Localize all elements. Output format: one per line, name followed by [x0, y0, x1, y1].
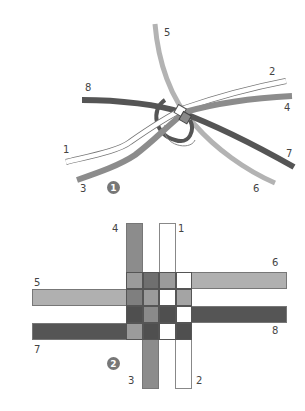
strand-label-4: 4 [284, 103, 290, 113]
grid-cell [159, 323, 176, 340]
grid-cell [143, 306, 160, 323]
strand-6-bar [191, 272, 287, 289]
strand-5-bar [32, 289, 127, 306]
strand-label-8: 8 [85, 83, 91, 93]
strand-label-6: 6 [253, 184, 259, 194]
knot-strands-drawing [0, 0, 305, 205]
strand-label-1: 1 [63, 145, 69, 155]
grid-label-3: 3 [128, 376, 134, 386]
grid-cell [126, 272, 143, 289]
strand-4-bar [126, 223, 143, 273]
grid-label-2: 2 [196, 376, 202, 386]
grid-cell [159, 272, 176, 289]
grid-cell [143, 323, 160, 340]
grid-label-4: 4 [112, 224, 118, 234]
grid-cell [176, 289, 193, 306]
strand-label-3: 3 [80, 184, 86, 194]
grid-cell [126, 289, 143, 306]
grid-cell [126, 323, 143, 340]
grid-cell [159, 306, 176, 323]
strand-1-bar [159, 223, 176, 273]
grid-cell [126, 306, 143, 323]
grid-label-1: 1 [178, 224, 184, 234]
grid-cell [143, 272, 160, 289]
strand-label-5: 5 [164, 28, 170, 38]
grid-cell [176, 272, 193, 289]
strand-8-bar [191, 306, 287, 323]
grid-label-8: 8 [272, 326, 278, 336]
strand-2-bar [175, 339, 192, 389]
step-badge-2: 2 [107, 357, 120, 370]
strand-7-bar [32, 323, 127, 340]
grid-label-7: 7 [34, 345, 40, 355]
grid-cell [143, 289, 160, 306]
step-badge-1: 1 [107, 181, 120, 194]
grid-cell [159, 289, 176, 306]
strand-label-2: 2 [269, 67, 275, 77]
strand-label-7: 7 [286, 149, 292, 159]
grid-label-5: 5 [34, 278, 40, 288]
grid-cell [176, 306, 193, 323]
grid-cell [176, 323, 193, 340]
grid-label-6: 6 [272, 258, 278, 268]
strand-3-bar [142, 339, 159, 389]
